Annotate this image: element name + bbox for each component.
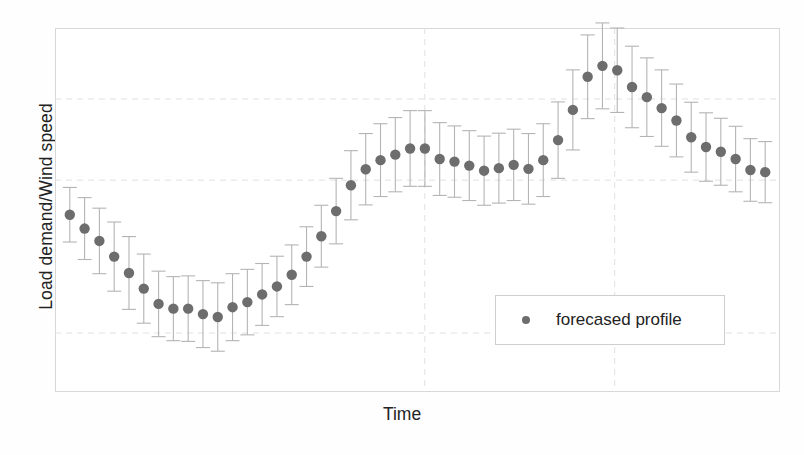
legend-marker-forecased-profile	[496, 316, 556, 324]
data-points	[65, 61, 771, 323]
legend-dot-icon	[522, 316, 530, 324]
legend: forecased profile	[495, 295, 725, 345]
chart-figure: Load demand/Wind speed forecased profile…	[0, 0, 804, 455]
plot-area: forecased profile	[55, 28, 780, 392]
x-axis-label: Time	[0, 404, 804, 425]
y-axis-label: Load demand/Wind speed	[36, 77, 57, 337]
legend-label-forecased-profile: forecased profile	[556, 310, 682, 330]
